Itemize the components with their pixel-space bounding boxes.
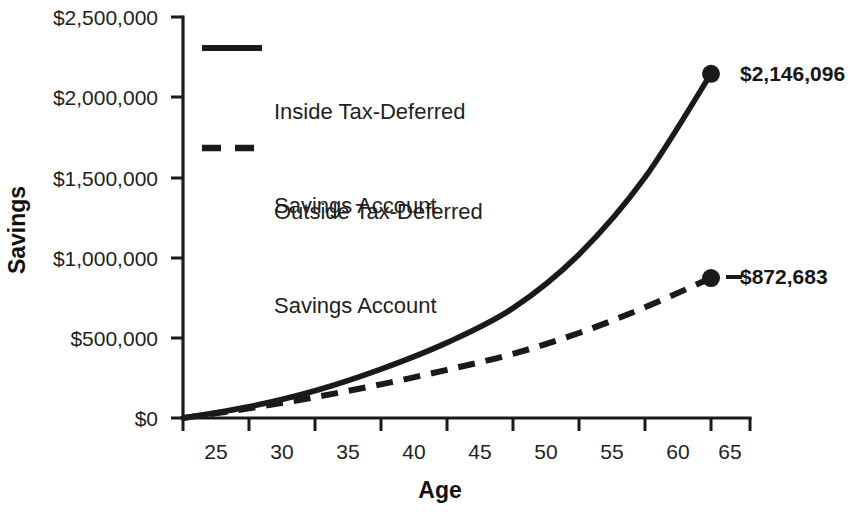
outside-end-value-label: $872,683 (740, 265, 828, 290)
y-axis-title: Savings (4, 160, 31, 300)
y-axis-ticks (171, 17, 183, 418)
x-tick-label-50: 50 (516, 440, 576, 465)
outside-endpoint-marker (702, 269, 720, 287)
inside-endpoint-marker (702, 65, 720, 83)
x-tick-label-65: 65 (700, 440, 760, 465)
y-tick-label-1500000: $1,500,000 (18, 167, 158, 192)
legend-entry-outside-line1: Outside Tax-Deferred (274, 196, 483, 227)
x-tick-label-45: 45 (450, 440, 510, 465)
x-tick-label-60: 60 (648, 440, 708, 465)
x-tick-label-30: 30 (252, 440, 312, 465)
inside-end-value-label: $2,146,096 (740, 62, 845, 87)
y-tick-label-500000: $500,000 (18, 327, 158, 352)
x-tick-label-25: 25 (186, 440, 246, 465)
savings-growth-chart: $2,500,000 $2,000,000 $1,500,000 $1,000,… (0, 0, 864, 512)
legend-entry-outside: Outside Tax-Deferred Savings Account (274, 134, 483, 384)
x-axis-ticks (183, 418, 750, 431)
x-axis-title: Age (380, 477, 500, 504)
y-tick-label-0: $0 (18, 407, 158, 432)
y-tick-label-2000000: $2,000,000 (18, 86, 158, 111)
y-tick-label-2500000: $2,500,000 (18, 6, 158, 31)
legend-entry-inside-line1: Inside Tax-Deferred (274, 96, 466, 127)
y-tick-label-1000000: $1,000,000 (18, 247, 158, 272)
x-tick-label-55: 55 (582, 440, 642, 465)
legend-entry-outside-line2: Savings Account (274, 290, 483, 321)
x-tick-label-35: 35 (318, 440, 378, 465)
x-tick-label-40: 40 (384, 440, 444, 465)
